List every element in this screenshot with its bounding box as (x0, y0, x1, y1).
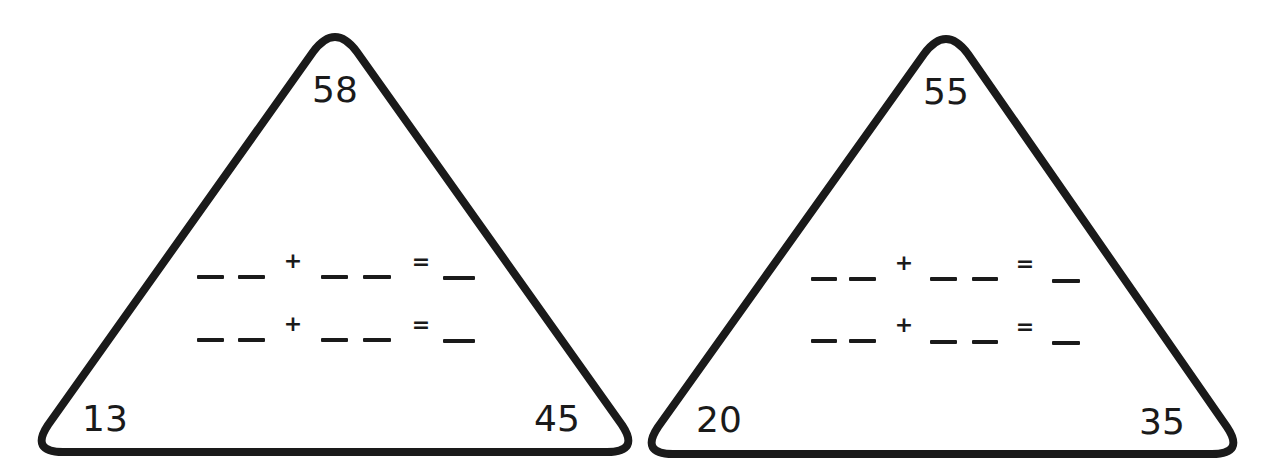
answer-blank[interactable] (443, 339, 475, 343)
bottom-left-number: 20 (696, 399, 742, 440)
answer-blank[interactable] (238, 275, 265, 279)
worksheet-canvas: 58 13 45 + = + = 55 20 35 (0, 0, 1267, 474)
plus-sign: + (895, 250, 913, 275)
bottom-right-number: 35 (1139, 401, 1185, 442)
answer-blank[interactable] (321, 338, 348, 342)
answer-blank[interactable] (443, 276, 475, 280)
equation-row-1: + = (197, 248, 475, 280)
plus-sign: + (284, 311, 302, 336)
answer-blank[interactable] (972, 277, 998, 281)
plus-sign: + (895, 312, 913, 337)
fact-family-triangle-2: 55 20 35 + = + = (652, 39, 1234, 454)
answer-blank[interactable] (197, 338, 224, 342)
top-number: 58 (312, 69, 358, 110)
equation-row-1: + = (811, 250, 1080, 283)
bottom-right-number: 45 (534, 398, 580, 439)
equals-sign: = (412, 312, 430, 337)
answer-blank[interactable] (197, 275, 224, 279)
answer-blank[interactable] (811, 339, 837, 343)
plus-sign: + (284, 248, 302, 273)
top-number: 55 (923, 71, 969, 112)
answer-blank[interactable] (811, 277, 837, 281)
answer-blank[interactable] (363, 275, 391, 279)
equation-row-2: + = (811, 312, 1080, 345)
bottom-left-number: 13 (82, 398, 128, 439)
equals-sign: = (1016, 314, 1034, 339)
equals-sign: = (412, 249, 430, 274)
answer-blank[interactable] (238, 338, 265, 342)
answer-blank[interactable] (930, 277, 957, 281)
answer-blank[interactable] (363, 338, 391, 342)
answer-blank[interactable] (321, 275, 348, 279)
answer-blank[interactable] (1052, 341, 1080, 345)
answer-blank[interactable] (972, 340, 998, 344)
answer-blank[interactable] (1052, 279, 1080, 283)
answer-blank[interactable] (849, 277, 876, 281)
equals-sign: = (1016, 251, 1034, 276)
answer-blank[interactable] (930, 340, 957, 344)
equation-row-2: + = (197, 311, 475, 343)
fact-family-triangle-1: 58 13 45 + = + = (42, 37, 629, 452)
answer-blank[interactable] (849, 339, 876, 343)
